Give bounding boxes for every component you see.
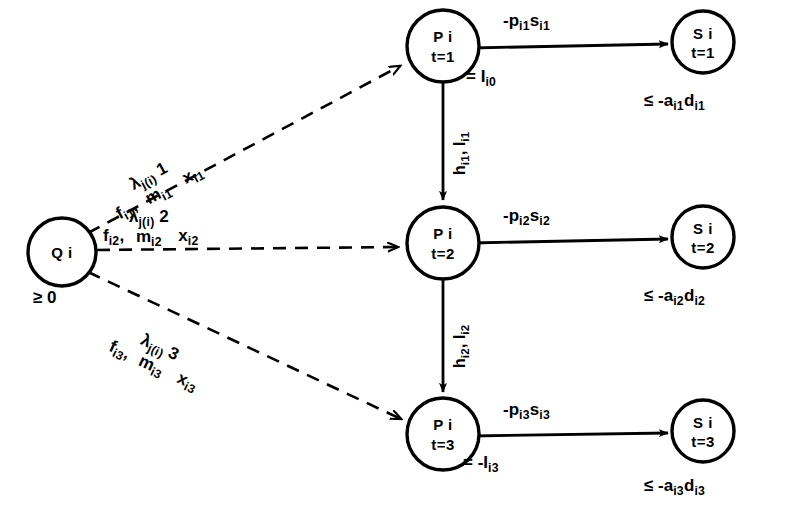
sales-arc-1-flow: s — [530, 11, 539, 30]
node-sink-t3-line1: S i — [693, 414, 713, 431]
sink-t3-bound-sub1: i3 — [673, 484, 684, 498]
inventory-arc-1-label: hi1, Ii1 — [452, 131, 471, 175]
inventory-arc-1-flow-sub: i1 — [459, 131, 471, 141]
node-plant-t1-line2: t=1 — [431, 48, 455, 65]
network-flow-diagram: Q i P i t=1 P i t=2 P i t=3 S i t=1 S i … — [0, 0, 786, 509]
sales-arc-3-price-sub: i3 — [519, 408, 530, 422]
supply-arc-2-flow: x — [178, 226, 187, 245]
plant-t1-annotation-sub: i0 — [485, 75, 496, 89]
source-lower-bound: ≥ 0 — [33, 289, 57, 306]
sink-t2-bound-mid: d — [684, 286, 694, 305]
node-plant-t1-line1: P i — [433, 28, 453, 45]
node-source-q-label: Q i — [51, 244, 73, 261]
sales-arc-2-label: -pi2si2 — [503, 207, 550, 227]
supply-arc-2-ratio: λj(i) 2mi2 — [129, 208, 169, 248]
inventory-arc-2-flow-sub: i2 — [459, 324, 471, 334]
sales-arc-3-price: -p — [503, 400, 519, 419]
node-plant-t3-line1: P i — [433, 416, 453, 433]
node-plant-t2-line2: t=2 — [431, 245, 455, 262]
supply-arc-2-lambda: λ — [129, 207, 138, 226]
node-plant-t3-line2: t=3 — [431, 436, 455, 453]
sink-t1-bound-prefix: ≤ -a — [644, 91, 673, 110]
supply-arc-2-label: fi2, λj(i) 2mi2 xi2 — [103, 208, 199, 248]
node-source-q: Q i — [28, 218, 96, 286]
inventory-arc-1-cost: h — [451, 165, 468, 175]
plant-t1-annotation-main: = I — [466, 67, 485, 86]
sales-arc-1-price: -p — [503, 11, 519, 30]
sink-t2-bound-sub1: i2 — [673, 294, 684, 308]
inventory-arc-2-flow: I — [451, 335, 468, 339]
node-sink-t1: S i t=1 — [672, 11, 734, 73]
sales-arc-2-flow: s — [530, 206, 539, 225]
node-plant-t2: P i t=2 — [407, 207, 479, 279]
node-sink-t3: S i t=3 — [672, 400, 734, 462]
supply-arc-2-period: 2 — [159, 207, 168, 226]
supply-arc-2-cost-sub: i2 — [109, 234, 120, 248]
sink-t3-bound-prefix: ≤ -a — [644, 476, 673, 495]
node-sink-t2-line2: t=2 — [691, 239, 715, 256]
sink-t2-bound-prefix: ≤ -a — [644, 286, 673, 305]
supply-arc-3-period: 3 — [165, 343, 182, 364]
sales-arc-1-label: -pi1si1 — [503, 12, 550, 32]
sales-arc-1 — [472, 44, 668, 48]
sales-arc-1-price-sub: i1 — [519, 19, 530, 33]
node-sink-t2: S i t=2 — [672, 206, 734, 268]
sales-arc-1-flow-sub: i1 — [539, 19, 550, 33]
node-plant-t2-line1: P i — [433, 225, 453, 242]
sink-t3-bound: ≤ -ai3di3 — [644, 477, 705, 497]
supply-arc-2-den-sub: i2 — [151, 235, 162, 249]
plant-t3-annotation-main: = -I — [463, 453, 488, 472]
sink-t2-bound-sub2: i2 — [694, 294, 705, 308]
supply-arc-1-period: 1 — [153, 158, 170, 179]
supply-arc-2-flow-sub: i2 — [188, 234, 199, 248]
sink-t1-bound-sub2: i1 — [694, 99, 705, 113]
inventory-arc-1-sep: , — [451, 151, 468, 155]
inventory-arc-2-cost-sub: i2 — [459, 348, 471, 358]
node-sink-t1-line2: t=1 — [691, 44, 715, 61]
inventory-arc-1-flow: I — [451, 142, 468, 146]
supply-arc-2-den: m — [136, 227, 151, 246]
sales-arc-2-price-sub: i2 — [519, 214, 530, 228]
sales-arc-3-flow-sub: i3 — [539, 408, 550, 422]
inventory-arc-2-sep: , — [451, 344, 468, 348]
sink-t1-bound-sub1: i1 — [673, 99, 684, 113]
sink-t2-bound: ≤ -ai2di2 — [644, 287, 705, 307]
diagram-canvas: Q i P i t=1 P i t=2 P i t=3 S i t=1 S i … — [0, 0, 786, 509]
sink-t3-bound-mid: d — [684, 476, 694, 495]
sales-arc-2-flow-sub: i2 — [539, 214, 550, 228]
node-sink-t3-line2: t=3 — [691, 433, 715, 450]
supply-arc-2-sep: , — [119, 226, 124, 245]
sink-t3-bound-sub2: i3 — [694, 484, 705, 498]
node-sink-t2-line1: S i — [693, 220, 713, 237]
sink-t1-bound-mid: d — [684, 91, 694, 110]
sink-t1-bound: ≤ -ai1di1 — [644, 92, 705, 112]
sales-arc-3-label: -pi3si3 — [503, 401, 550, 421]
plant-t1-annotation: = Ii0 — [466, 68, 496, 88]
plant-t3-annotation-sub: i3 — [488, 461, 499, 475]
sales-arc-3 — [472, 433, 668, 436]
node-sink-t1-line1: S i — [693, 25, 713, 42]
inventory-arc-1-cost-sub: i1 — [459, 155, 471, 165]
inventory-arc-2-label: hi2, Ii2 — [452, 324, 471, 368]
plant-t3-annotation: = -Ii3 — [463, 454, 499, 474]
sales-arc-3-flow: s — [530, 400, 539, 419]
sales-arc-2-price: -p — [503, 206, 519, 225]
sales-arc-2 — [472, 239, 668, 243]
inventory-arc-2-cost: h — [451, 358, 468, 368]
